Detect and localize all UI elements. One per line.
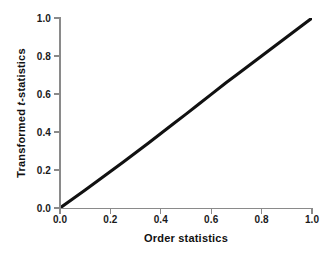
x-axis-tick-label: 0.6 [204, 214, 218, 225]
x-axis-tick-label: 0.4 [154, 214, 168, 225]
x-axis-tick-label: 0.0 [53, 214, 67, 225]
y-axis-tick-mark [54, 55, 59, 56]
y-axis-tick-label: 1.0 [37, 13, 51, 24]
plot-canvas [60, 18, 312, 208]
y-axis-tick-mark [54, 93, 59, 94]
x-axis-tick-label: 0.2 [103, 214, 117, 225]
x-axis-tick-label: 1.0 [305, 214, 319, 225]
y-axis-tick-label: 0.4 [37, 127, 51, 138]
x-axis-tick-label: 0.8 [254, 214, 268, 225]
y-axis-tick-label: 0.8 [37, 51, 51, 62]
y-axis-tick-mark [54, 169, 59, 170]
x-axis-spine [59, 208, 313, 210]
x-axis-title: Order statistics [60, 232, 312, 244]
y-axis-tick-label: 0.6 [37, 89, 51, 100]
y-axis-tick-mark [54, 131, 59, 132]
y-axis-title: Transformed t-statistics [10, 18, 32, 208]
y-axis-title-italic-t: t [15, 102, 27, 106]
chart-figure: 0.00.20.40.60.81.0 0.00.20.40.60.81.0 Or… [0, 0, 334, 260]
data-series-line [60, 18, 312, 208]
y-axis-tick-mark [54, 207, 59, 208]
y-axis-tick-label: 0.0 [37, 203, 51, 214]
y-axis-title-prefix: Transformed [15, 106, 27, 178]
plot-area [60, 18, 312, 208]
y-axis-spine [59, 17, 61, 209]
y-axis-tick-label: 0.2 [37, 165, 51, 176]
y-axis-tick-mark [54, 17, 59, 18]
y-axis-title-suffix: -statistics [15, 48, 27, 102]
